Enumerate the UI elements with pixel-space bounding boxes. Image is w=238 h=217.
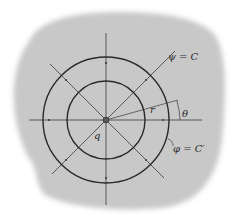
- streamline-label: ψ = C: [168, 51, 199, 62]
- source-flow-diagram: ψ = C φ = C′ r θ q: [0, 0, 238, 217]
- source-strength-label: q: [94, 130, 100, 141]
- equipotential-label: φ = C′: [173, 143, 205, 154]
- flow-region: [14, 12, 225, 209]
- source-point: [103, 117, 109, 123]
- angle-label: θ: [182, 108, 188, 119]
